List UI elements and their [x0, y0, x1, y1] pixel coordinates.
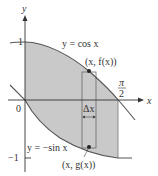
upper-point-label: (x, f(x)) [85, 56, 117, 68]
origin-label: 0 [16, 103, 21, 114]
pi-over-two-denominator: 2 [119, 88, 124, 99]
y-axis-label: y [21, 3, 27, 14]
y-axis-arrow-icon [23, 15, 28, 21]
y-tick-minus-one-label: −1 [8, 152, 19, 163]
lower-point-label: (x, g(x)) [62, 159, 95, 171]
cos-curve-label: y = cos x [62, 38, 98, 49]
y-tick-one-label: 1 [18, 36, 23, 47]
neg-sin-curve-label: y = −sin x [27, 142, 67, 153]
pi-over-two-numerator: π [119, 77, 125, 88]
upper-point [87, 69, 91, 73]
area-between-curves-diagram: y x 0 1 −1 π 2 y = cos x (x, f(x)) y = −… [0, 0, 158, 176]
x-axis-label: x [146, 95, 152, 106]
x-axis-arrow-icon [138, 98, 144, 103]
delta-x-label: Δx [83, 103, 94, 114]
